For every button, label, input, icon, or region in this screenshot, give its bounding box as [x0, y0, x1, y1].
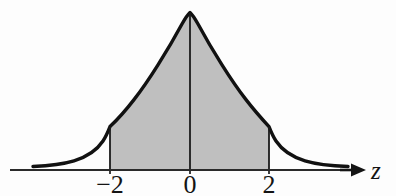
axis-variable-label-z: z	[371, 158, 381, 183]
normal-curve-plot	[0, 0, 396, 196]
tick-label-plus-2: 2	[245, 172, 293, 196]
tick-label-minus-2: −2	[86, 172, 134, 196]
normal-curve-figure: −2 0 2 z	[0, 0, 396, 196]
tick-label-zero: 0	[166, 172, 214, 196]
axis-arrow-head-icon	[351, 164, 366, 177]
